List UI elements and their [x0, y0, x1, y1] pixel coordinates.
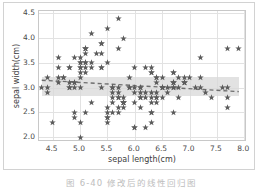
y-axis-ticks: 2.02.53.03.54.04.5 — [12, 10, 35, 141]
x-tick-label: 7.5 — [210, 144, 222, 153]
y-tick-label: 3.0 — [23, 82, 35, 91]
figure: sepal width(cm) 2.02.53.03.54.04.5 4.55.… — [0, 0, 263, 190]
x-tick-label: 5.5 — [100, 144, 112, 153]
x-tick-label: 8.0 — [237, 144, 249, 153]
y-tick-label: 3.5 — [23, 57, 35, 66]
x-tick-label: 4.5 — [46, 144, 58, 153]
y-tick-label: 4.5 — [23, 8, 35, 17]
x-tick-label: 6.0 — [128, 144, 140, 153]
x-tick-label: 6.5 — [155, 144, 167, 153]
figure-caption: 图 6-40 修改后的线性回归图 — [0, 176, 263, 188]
y-tick-label: 4.0 — [23, 33, 35, 42]
x-tick-label: 7.0 — [183, 144, 195, 153]
y-tick-label: 2.5 — [23, 107, 35, 116]
x-tick-label: 5.0 — [73, 144, 85, 153]
plot-area-wrapper — [38, 10, 246, 141]
plot-area — [38, 10, 246, 141]
x-axis-label: sepal length(cm) — [38, 155, 246, 164]
y-tick-label: 2.0 — [23, 132, 35, 141]
regression-line — [39, 11, 246, 141]
